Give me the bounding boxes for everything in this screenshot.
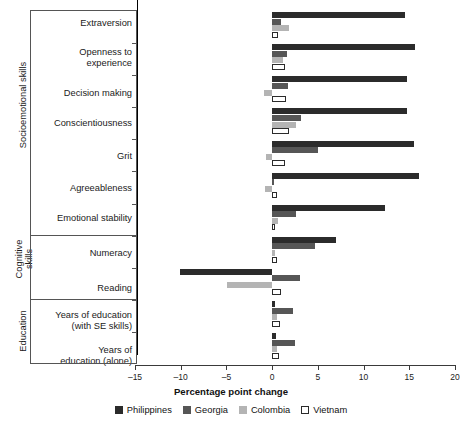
x-tick-label: 10: [349, 372, 379, 382]
group-spine: [30, 11, 31, 236]
legend-item-colombia: Colombia: [239, 405, 290, 415]
bar-colombia-10: [272, 346, 277, 352]
bar-colombia-5: [265, 186, 272, 192]
bar-georgia-2: [272, 83, 288, 89]
bar-vietnam-9: [272, 321, 280, 327]
bar-colombia-9: [272, 314, 277, 320]
block-label-socioemotional-text: Socioemotional skills: [18, 62, 28, 148]
bar-georgia-6: [272, 211, 296, 217]
legend-item-philippines: Philippines: [115, 405, 172, 415]
x-tick-label: –5: [211, 372, 241, 382]
group-separator: [30, 10, 137, 11]
category-label-column: Socioemotional skills Cognitive skills E…: [2, 0, 132, 426]
bar-vietnam-7: [272, 257, 277, 263]
x-tick: [181, 365, 182, 370]
category-label-decision-making: Decision making: [8, 88, 132, 99]
bar-philippines-5: [272, 173, 419, 179]
x-tick: [226, 365, 227, 370]
x-tick-label: 0: [257, 372, 287, 382]
bar-georgia-4: [272, 147, 318, 153]
x-tick-label: –15: [120, 372, 150, 382]
x-tick: [135, 365, 136, 370]
bar-philippines-8: [180, 269, 272, 275]
category-label-conscientiousness: Conscientiousness: [8, 118, 132, 129]
category-label-years-education-se: Years of education (with SE skills): [8, 310, 132, 331]
x-tick-label: 5: [303, 372, 333, 382]
group-spine: [30, 236, 31, 300]
category-label-grit: Grit: [8, 151, 132, 162]
category-label-openness: Openness to experience: [8, 47, 132, 68]
x-tick: [318, 365, 319, 370]
legend-item-georgia: Georgia: [183, 405, 228, 415]
legend-swatch-georgia: [183, 406, 191, 414]
category-label-extraversion: Extraversion: [8, 18, 132, 29]
legend-label-georgia: Georgia: [195, 405, 228, 415]
plot-area: [135, 10, 455, 365]
group-separator: [30, 363, 137, 364]
category-label-numeracy: Numeracy: [8, 248, 132, 259]
bar-philippines-10: [272, 333, 276, 339]
bar-philippines-7: [272, 237, 336, 243]
group-spine: [30, 300, 31, 364]
bar-colombia-8: [227, 282, 272, 288]
bar-georgia-5: [272, 179, 274, 185]
bar-georgia-7: [272, 243, 315, 249]
bar-vietnam-0: [272, 32, 277, 38]
x-tick-label: 20: [440, 372, 462, 382]
legend-label-vietnam: Vietnam: [313, 405, 347, 415]
block-label-socioemotional: Socioemotional skills: [18, 10, 28, 200]
bar-vietnam-10: [272, 353, 279, 359]
x-tick-label: –10: [166, 372, 196, 382]
category-label-emotional-stability: Emotional stability: [8, 213, 132, 224]
x-tick-label: 15: [394, 372, 424, 382]
zero-reference-line: [137, 0, 138, 355]
bar-georgia-1: [272, 51, 287, 57]
legend-swatch-vietnam: [301, 406, 309, 414]
group-separator: [30, 299, 137, 300]
legend-swatch-philippines: [115, 406, 123, 414]
legend-item-vietnam: Vietnam: [301, 405, 347, 415]
bar-colombia-0: [272, 25, 288, 31]
group-separator: [30, 235, 137, 236]
bar-philippines-6: [272, 205, 384, 211]
bar-colombia-1: [272, 57, 283, 63]
bar-philippines-1: [272, 44, 415, 50]
legend-swatch-colombia: [239, 406, 247, 414]
bar-philippines-9: [272, 301, 275, 307]
legend-label-colombia: Colombia: [251, 405, 290, 415]
bar-georgia-8: [272, 275, 299, 281]
bar-vietnam-3: [272, 128, 289, 134]
chart-legend: Philippines Georgia Colombia Vietnam: [0, 405, 462, 415]
bar-colombia-7: [272, 250, 275, 256]
legend-label-philippines: Philippines: [127, 405, 172, 415]
bar-colombia-4: [266, 154, 272, 160]
bar-vietnam-1: [272, 64, 285, 70]
bar-vietnam-4: [272, 160, 285, 166]
bar-philippines-4: [272, 141, 414, 147]
x-tick: [364, 365, 365, 370]
bar-vietnam-6: [272, 224, 275, 230]
bar-colombia-3: [272, 122, 296, 128]
category-label-reading: Reading: [8, 283, 132, 294]
block-label-cognitive-line1: Cognitive: [14, 240, 24, 279]
x-tick: [272, 365, 273, 370]
x-axis-title: Percentage point change: [0, 386, 462, 397]
x-tick: [455, 365, 456, 370]
bar-georgia-9: [272, 308, 293, 314]
bar-colombia-6: [272, 218, 277, 224]
x-tick: [409, 365, 410, 370]
bar-georgia-3: [272, 115, 301, 121]
chart-figure: Socioemotional skills Cognitive skills E…: [0, 0, 462, 426]
bar-philippines-3: [272, 108, 407, 114]
bar-philippines-0: [272, 12, 405, 18]
x-axis-line: [135, 365, 455, 366]
bar-vietnam-8: [272, 289, 281, 295]
category-label-agreeableness: Agreeableness: [8, 183, 132, 194]
bar-georgia-0: [272, 19, 281, 25]
bar-philippines-2: [272, 76, 406, 82]
bar-vietnam-5: [272, 192, 277, 198]
bar-vietnam-2: [272, 96, 286, 102]
bar-colombia-2: [264, 90, 272, 96]
bar-georgia-10: [272, 340, 295, 346]
